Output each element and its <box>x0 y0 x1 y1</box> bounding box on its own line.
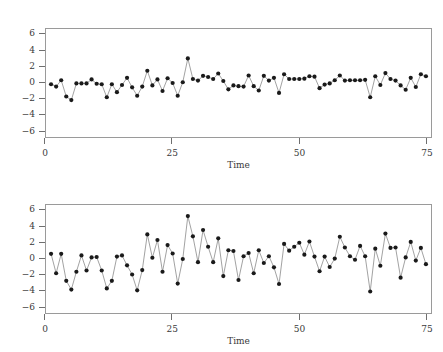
data-point <box>160 270 164 274</box>
chart-panel-bottom: 6420−2−4−6 0255075 Time <box>0 176 443 352</box>
data-point <box>378 83 382 87</box>
data-point <box>343 245 347 249</box>
data-point <box>79 253 83 257</box>
data-point <box>333 257 337 261</box>
data-point <box>312 75 316 79</box>
x-tick-label: 50 <box>286 323 314 335</box>
data-point <box>115 255 119 259</box>
data-point <box>155 77 159 81</box>
data-point <box>95 82 99 86</box>
data-point <box>226 87 230 91</box>
data-point <box>181 257 185 261</box>
data-point <box>328 265 332 269</box>
data-point <box>262 74 266 78</box>
y-tick-label: 4 <box>29 220 35 233</box>
data-point <box>84 268 88 272</box>
data-point <box>171 81 175 85</box>
data-point <box>105 286 109 290</box>
data-point <box>59 78 63 82</box>
data-point <box>348 78 352 82</box>
data-point <box>317 86 321 90</box>
data-point <box>353 258 357 262</box>
data-point <box>54 85 58 89</box>
data-point <box>64 94 68 98</box>
data-point <box>145 69 149 73</box>
y-axis-top: 6420−2−4−6 <box>0 28 45 138</box>
figure-root: 6420−2−4−6 0255075 Time 6420−2−4−6 02550… <box>0 0 443 352</box>
data-point <box>257 248 261 252</box>
data-point <box>79 81 83 85</box>
data-point <box>115 90 119 94</box>
data-point <box>328 81 332 85</box>
chart-panel-top: 6420−2−4−6 0255075 Time <box>0 0 443 176</box>
y-tick-label: −4 <box>22 108 35 121</box>
data-point <box>262 261 266 265</box>
data-point <box>323 83 327 87</box>
x-tick-mark <box>171 138 172 144</box>
data-point <box>64 279 68 283</box>
data-point <box>120 83 124 87</box>
x-tick-label: 25 <box>158 323 186 335</box>
data-point <box>74 270 78 274</box>
data-point <box>59 252 63 256</box>
data-point <box>409 76 413 80</box>
data-point <box>409 240 413 244</box>
data-point <box>49 252 53 256</box>
data-point <box>368 289 372 293</box>
data-point <box>181 80 185 84</box>
data-point <box>176 94 180 98</box>
x-tick-mark <box>299 314 300 320</box>
data-point <box>348 254 352 258</box>
data-point <box>145 232 149 236</box>
data-point <box>196 79 200 83</box>
data-point <box>302 77 306 81</box>
data-point <box>383 232 387 236</box>
y-tick-label: −4 <box>22 284 35 297</box>
x-tick-mark <box>44 314 45 320</box>
data-point <box>95 255 99 259</box>
series-plot-bottom <box>46 205 431 313</box>
data-point <box>393 245 397 249</box>
data-point <box>211 260 215 264</box>
x-tick-mark <box>171 314 172 320</box>
data-point <box>282 242 286 246</box>
data-point <box>90 255 94 259</box>
data-point <box>221 274 225 278</box>
data-point <box>100 268 104 272</box>
data-point <box>383 71 387 75</box>
data-point <box>399 83 403 87</box>
data-point <box>236 84 240 88</box>
data-point <box>287 77 291 81</box>
data-point <box>414 85 418 89</box>
data-point <box>292 77 296 81</box>
data-point <box>165 243 169 247</box>
data-point <box>272 265 276 269</box>
data-point <box>247 73 251 77</box>
data-point <box>292 245 296 249</box>
data-point <box>317 269 321 273</box>
data-point <box>302 253 306 257</box>
data-point <box>297 241 301 245</box>
series-plot-top <box>46 29 431 137</box>
data-point <box>399 276 403 280</box>
data-point <box>388 77 392 81</box>
x-tick-label: 0 <box>31 147 59 159</box>
plot-area-top <box>45 28 432 138</box>
y-tick-label: −2 <box>22 92 35 105</box>
data-point <box>120 253 124 257</box>
data-point <box>110 279 114 283</box>
x-tick-mark <box>426 138 427 144</box>
data-point <box>125 263 129 267</box>
data-point <box>353 78 357 82</box>
data-point <box>140 268 144 272</box>
data-point <box>368 95 372 99</box>
y-tick-label: 0 <box>29 76 35 89</box>
y-tick-label: 6 <box>29 27 35 40</box>
data-point <box>338 73 342 77</box>
data-point <box>419 246 423 250</box>
x-tick-mark <box>299 138 300 144</box>
data-point <box>252 84 256 88</box>
data-point <box>90 77 94 81</box>
data-point <box>130 272 134 276</box>
data-point <box>176 282 180 286</box>
